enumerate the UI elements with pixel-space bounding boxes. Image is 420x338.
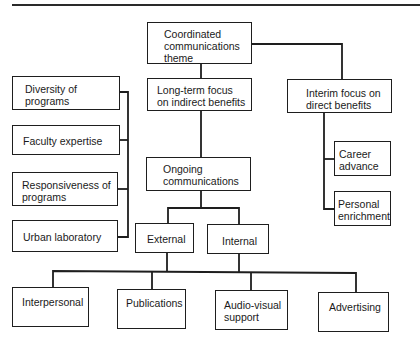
node-line: programs — [22, 191, 117, 203]
node-line: on indirect benefits — [157, 96, 251, 108]
node-responsiveness-of-programs: Responsiveness of programs — [12, 172, 118, 206]
node-urban-laboratory: Urban laboratory — [12, 220, 118, 252]
node-line: Long-term focus — [157, 84, 251, 96]
node-line: Interpersonal — [22, 296, 88, 308]
node-line: support — [224, 311, 287, 323]
node-line: Coordinated — [164, 28, 251, 40]
node-line: Ongoing — [163, 163, 250, 175]
node-line: direct benefits — [306, 99, 391, 111]
node-line: External — [147, 233, 193, 245]
node-line: Responsiveness of — [22, 179, 117, 191]
node-line: Advertising — [329, 301, 388, 313]
node-interpersonal: Interpersonal — [12, 287, 89, 327]
node-line: Urban laboratory — [23, 231, 117, 243]
node-publications: Publications — [117, 289, 186, 329]
node-line: communications — [164, 40, 251, 52]
node-advertising: Advertising — [318, 292, 389, 332]
node-line: communications — [163, 175, 250, 187]
node-internal: Internal — [207, 224, 269, 254]
node-line: theme — [164, 52, 251, 64]
node-audio-visual-support: Audio-visual support — [215, 290, 288, 330]
node-long-term-focus: Long-term focus on indirect benefits — [147, 78, 252, 111]
node-line: Diversity of — [25, 83, 119, 95]
node-external: External — [135, 223, 194, 253]
node-line: Publications — [126, 297, 185, 309]
node-ongoing-communications: Ongoing communications — [146, 157, 251, 191]
node-line: Audio-visual — [224, 299, 287, 311]
node-faculty-expertise: Faculty expertise — [12, 125, 120, 155]
node-line: Career — [339, 148, 390, 160]
node-interim-focus: Interim focus on direct benefits — [287, 79, 392, 113]
node-line: Faculty expertise — [23, 135, 119, 147]
node-line: Interim focus on — [306, 87, 391, 99]
node-line: Internal — [222, 235, 268, 247]
node-career-advance: Career advance — [334, 141, 391, 176]
node-coordinated-communications-theme: Coordinated communications theme — [147, 22, 252, 64]
node-line: advance — [339, 160, 390, 172]
node-personal-enrichment: Personal enrichment — [334, 191, 391, 226]
node-line: Personal — [338, 198, 390, 210]
node-diversity-of-programs: Diversity of programs — [12, 76, 120, 110]
node-line: programs — [25, 95, 119, 107]
node-line: enrichment — [338, 210, 390, 222]
